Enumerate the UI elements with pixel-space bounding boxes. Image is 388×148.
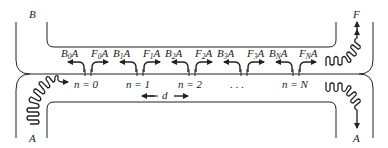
backward-wave-arrow: [224, 62, 240, 72]
forward-amplitude-label: F3A: [246, 47, 264, 61]
transmitted-wave-packet: [326, 30, 360, 66]
forward-amplitude-label: FNA: [298, 47, 318, 61]
scatterer-1: B1AF1An = 1: [113, 47, 160, 90]
scatterer-3: B3AF3A. . .: [217, 47, 264, 90]
backward-amplitude-label: B0A: [61, 47, 78, 61]
right-outer-wall: [320, 22, 373, 138]
scatterer-4: BNAFNAn = N: [269, 47, 318, 90]
backward-amplitude-label: B2A: [165, 47, 182, 61]
backward-wave-arrow: [276, 62, 292, 72]
forward-wave-arrow: [248, 62, 264, 72]
forward-amplitude-label: F1A: [142, 47, 160, 61]
backward-amplitude-label: BNA: [269, 47, 288, 61]
scatterer-index-label: n = 2: [178, 78, 202, 90]
scatterer-index-label: n = 0: [74, 78, 98, 90]
forward-wave-arrow: [144, 62, 160, 72]
scatterer-0: B0AF0An = 0: [61, 47, 108, 90]
backward-amplitude-label: B1A: [113, 47, 130, 61]
waveguide-diagram: B0AF0An = 0B1AF1An = 1B2AF2An = 2B3AF3A.…: [0, 0, 388, 148]
scatterer-index-label: n = N: [282, 78, 308, 90]
diagram-canvas: B0AF0An = 0B1AF1An = 1B2AF2An = 2B3AF3A.…: [0, 0, 388, 148]
port-label-B: B: [29, 8, 36, 20]
backward-amplitude-label: B3A: [217, 47, 234, 61]
spacing-label: d: [162, 89, 168, 101]
port-label-A-right: A: [352, 132, 360, 144]
backward-wave-arrow: [172, 62, 188, 72]
scatterer-index-label: . . .: [230, 78, 244, 90]
bottom-inner-wall: [47, 102, 336, 138]
top-inner-wall: [47, 22, 336, 47]
forward-wave-arrow: [92, 62, 108, 72]
forward-amplitude-label: F2A: [194, 47, 212, 61]
backward-wave-arrow: [120, 62, 136, 72]
port-label-A-left: A: [28, 132, 36, 144]
scatterer-index-label: n = 1: [126, 78, 150, 90]
scatterer-2: B2AF2An = 2: [165, 47, 212, 90]
backward-wave-arrow: [68, 62, 84, 72]
reflected-wave-packet: [326, 82, 360, 118]
port-label-F: F: [352, 8, 360, 20]
forward-wave-arrow: [196, 62, 212, 72]
forward-amplitude-label: F0A: [90, 47, 108, 61]
left-outer-wall-bottom: [16, 74, 30, 138]
forward-wave-arrow: [300, 62, 316, 72]
